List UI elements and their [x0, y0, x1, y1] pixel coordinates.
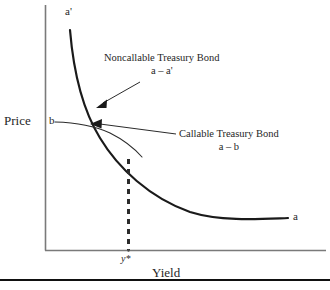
yield-star-tick	[127, 249, 129, 251]
x-tick-label-y-star: y*	[121, 254, 130, 265]
callable-leader-line	[100, 124, 176, 134]
curve-tag-a-prime: a'	[65, 6, 72, 18]
y-axis-title: Price	[4, 114, 31, 128]
curve-tag-b: b	[49, 115, 55, 127]
noncallable-callout: Noncallable Treasury Bond a – a'	[104, 52, 220, 76]
callable-callout-subtitle: a – b	[179, 141, 279, 152]
callable-callout: Callable Treasury Bond a – b	[179, 128, 279, 152]
noncallable-leader-line	[103, 82, 140, 103]
noncallable-arrow-icon	[96, 100, 107, 109]
noncallable-callout-subtitle: a – a'	[104, 65, 220, 76]
callable-callout-title: Callable Treasury Bond	[179, 128, 279, 139]
curve-tag-a: a	[293, 211, 298, 223]
bond-price-yield-chart	[0, 0, 330, 290]
noncallable-callout-title: Noncallable Treasury Bond	[104, 52, 220, 63]
bottom-divider	[0, 279, 330, 281]
x-axis-title: Yield	[152, 266, 180, 280]
